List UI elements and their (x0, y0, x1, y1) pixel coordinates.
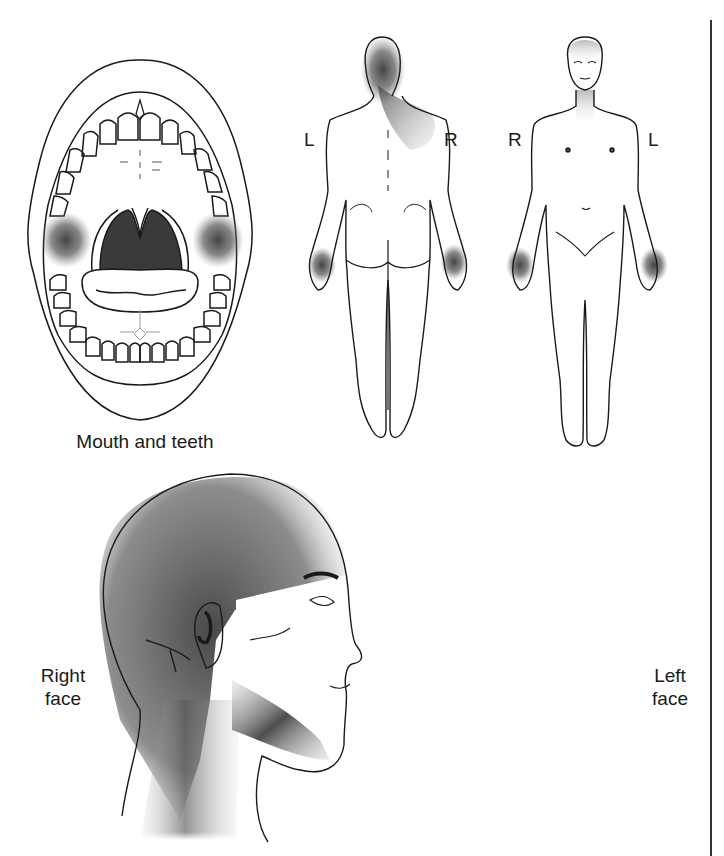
right-cheek-shading (192, 212, 244, 268)
front-view-right-label: R (508, 129, 522, 150)
right-face-caption-line2: face (28, 687, 98, 710)
front-right-hand-shading (506, 247, 534, 283)
forehead-shading (569, 40, 601, 60)
pain-diagram-canvas: L R R L (0, 0, 724, 856)
neck-shading (576, 90, 594, 120)
body-back-view (308, 36, 468, 438)
mouth-caption: Mouth and teeth (70, 430, 220, 453)
right-face-profile (99, 474, 361, 842)
mouth-diagram (28, 60, 252, 420)
left-cheek-shading (40, 212, 92, 268)
body-front-view (506, 37, 668, 446)
left-face-caption-line1: Left (640, 664, 700, 687)
right-border-line (710, 20, 712, 856)
front-view-left-label: L (648, 129, 659, 150)
right-shoulder-shading (378, 85, 435, 150)
back-view-right-label: R (444, 129, 458, 150)
left-face-caption: Left face (640, 664, 700, 710)
right-face-caption-line1: Right (28, 664, 98, 687)
right-face-caption: Right face (28, 664, 98, 710)
back-view-left-label: L (304, 129, 315, 150)
left-face-caption-line2: face (640, 687, 700, 710)
